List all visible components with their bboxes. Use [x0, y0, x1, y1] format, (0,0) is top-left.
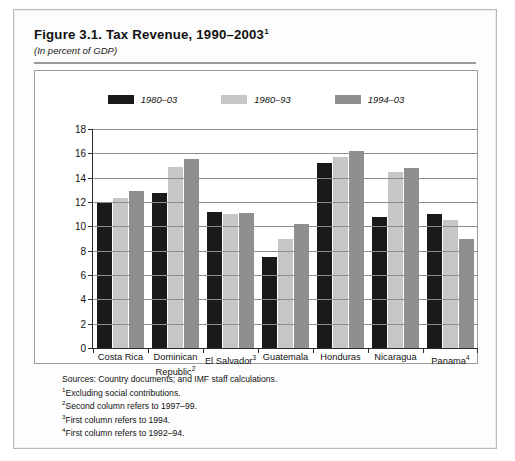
- bar[interactable]: [184, 159, 199, 348]
- bar-group: [368, 129, 423, 348]
- figure-notes: Sources: Country documents; and IMF staf…: [62, 374, 482, 438]
- figure-frame: Figure 3.1. Tax Revenue, 1990–20031 (In …: [13, 9, 497, 449]
- bar[interactable]: [427, 214, 442, 348]
- bar-group: [258, 129, 313, 348]
- legend-item[interactable]: 1980–03: [108, 94, 178, 105]
- y-axis-tick-mark: [88, 324, 93, 325]
- y-axis-tick-label: 10: [75, 221, 86, 232]
- y-axis-tick-mark: [88, 226, 93, 227]
- y-axis-tick-label: 8: [80, 245, 86, 256]
- legend-item[interactable]: 1980–93: [221, 94, 291, 105]
- bar[interactable]: [404, 168, 419, 348]
- footnote-text: Second column refers to 1997–99.: [65, 401, 196, 411]
- footnote-text: Excluding social contributions.: [65, 387, 180, 397]
- x-axis-baseline: [93, 348, 478, 349]
- footnote: 1Excluding social contributions.: [62, 385, 482, 398]
- bar[interactable]: [349, 151, 364, 348]
- legend-label: 1994–03: [368, 94, 405, 105]
- sources-note: Sources: Country documents; and IMF staf…: [62, 374, 482, 385]
- gridline: [93, 324, 478, 325]
- bar-group: [423, 129, 478, 348]
- y-axis-tick-label: 12: [75, 197, 86, 208]
- bar-groups: [93, 129, 478, 348]
- bar[interactable]: [223, 214, 238, 348]
- y-axis-tick-mark: [88, 153, 93, 154]
- legend-item[interactable]: 1994–03: [335, 94, 405, 105]
- bar-group: [148, 129, 203, 348]
- y-axis-tick-label: 6: [80, 270, 86, 281]
- bar[interactable]: [168, 167, 183, 348]
- bar[interactable]: [239, 213, 254, 348]
- plot-area: 024681012141618: [93, 129, 478, 348]
- header-divider: [34, 62, 476, 64]
- bar-group: [313, 129, 368, 348]
- y-axis-tick-mark: [88, 178, 93, 179]
- bar[interactable]: [372, 217, 387, 348]
- bar[interactable]: [152, 193, 167, 348]
- y-axis-tick-mark: [88, 299, 93, 300]
- legend-label: 1980–93: [254, 94, 291, 105]
- bar[interactable]: [113, 198, 128, 348]
- legend-label: 1980–03: [141, 94, 178, 105]
- y-axis-tick-mark: [88, 129, 93, 130]
- bar[interactable]: [262, 257, 277, 348]
- bar-group: [203, 129, 258, 348]
- footnote-text: First column refers to 1994.: [65, 414, 170, 424]
- footnote-text: First column refers to 1992–94.: [65, 428, 184, 438]
- bar[interactable]: [294, 224, 309, 348]
- figure-title-text: Figure 3.1. Tax Revenue, 1990–2003: [34, 27, 264, 42]
- y-axis-tick-label: 18: [75, 124, 86, 135]
- y-axis-tick-label: 16: [75, 148, 86, 159]
- y-axis-tick-mark: [88, 251, 93, 252]
- footnote: 4First column refers to 1992–94.: [62, 425, 482, 438]
- figure-root: Figure 3.1. Tax Revenue, 1990–20031 (In …: [0, 0, 515, 461]
- bar[interactable]: [443, 220, 458, 348]
- gridline: [93, 275, 478, 276]
- gridline: [93, 153, 478, 154]
- figure-title-superscript: 1: [264, 27, 269, 36]
- bar[interactable]: [207, 212, 222, 348]
- gridline: [93, 251, 478, 252]
- y-axis-tick-mark: [88, 348, 93, 349]
- x-axis-label-superscript: 3: [252, 354, 256, 361]
- gridline: [93, 202, 478, 203]
- bar[interactable]: [459, 239, 474, 349]
- figure-subtitle: (In percent of GDP): [34, 45, 117, 56]
- gridline: [93, 226, 478, 227]
- y-axis-tick-label: 4: [80, 294, 86, 305]
- y-axis-tick-mark: [88, 202, 93, 203]
- figure-title: Figure 3.1. Tax Revenue, 1990–20031: [34, 27, 269, 42]
- gridline: [93, 178, 478, 179]
- x-axis-label-superscript: 2: [192, 365, 196, 372]
- legend-swatch-icon: [108, 95, 134, 104]
- footnote: 2Second column refers to 1997–99.: [62, 398, 482, 411]
- y-axis-tick-label: 0: [80, 343, 86, 354]
- chart-panel: 1980–031980–931994–03 024681012141618 Co…: [34, 70, 478, 364]
- legend-swatch-icon: [335, 95, 361, 104]
- bar[interactable]: [333, 157, 348, 348]
- x-axis-label-line: Dominican: [148, 352, 203, 363]
- gridline: [93, 299, 478, 300]
- y-axis-tick-label: 14: [75, 172, 86, 183]
- footnote-text: Sources: Country documents; and IMF staf…: [62, 374, 277, 384]
- footnote: 3First column refers to 1994.: [62, 412, 482, 425]
- bar-group: [93, 129, 148, 348]
- bar[interactable]: [278, 239, 293, 349]
- gridline: [93, 129, 478, 130]
- bar[interactable]: [317, 163, 332, 348]
- chart-legend: 1980–031980–931994–03: [35, 91, 477, 107]
- x-axis-label-superscript: 4: [466, 354, 470, 361]
- y-axis-tick-mark: [88, 275, 93, 276]
- bar[interactable]: [388, 172, 403, 348]
- y-axis-tick-label: 2: [80, 318, 86, 329]
- legend-swatch-icon: [221, 95, 247, 104]
